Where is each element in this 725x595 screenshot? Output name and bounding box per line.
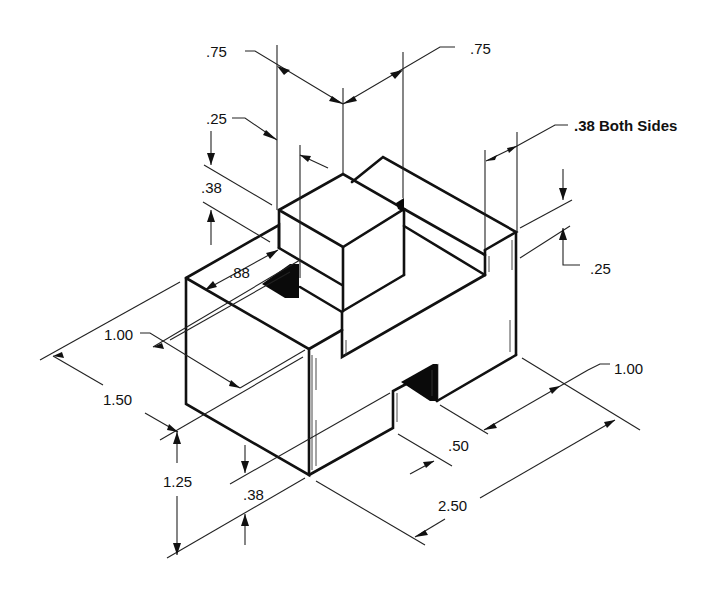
dim-overall-length: 2.50 bbox=[438, 497, 467, 514]
block-object bbox=[186, 157, 516, 475]
dim-cube-width-left: .75 bbox=[206, 43, 227, 60]
dim-step-height: .38 bbox=[201, 179, 222, 196]
dim-step-offset: .25 bbox=[206, 110, 227, 127]
dim-groove-depth: .25 bbox=[590, 260, 611, 277]
shaded-faces bbox=[262, 198, 437, 401]
dim-cube-width-right: .75 bbox=[470, 40, 491, 57]
dim-overall-height: 1.25 bbox=[163, 473, 192, 490]
dim-right-offset: 1.00 bbox=[614, 360, 643, 377]
dim-slot-height: .38 bbox=[243, 486, 264, 503]
dim-left-depth-inner: 1.00 bbox=[104, 326, 133, 343]
isometric-drawing: .75 .75 .25 .38 .38 Both Sides .25 .88 1… bbox=[0, 0, 725, 595]
dim-groove-length: .88 bbox=[229, 264, 250, 281]
dim-groove-width-note: .38 Both Sides bbox=[574, 117, 677, 134]
dim-overall-depth: 1.50 bbox=[103, 391, 132, 408]
dimension-lines bbox=[40, 45, 640, 558]
arrowheads bbox=[53, 66, 615, 555]
dim-slot-width: .50 bbox=[448, 437, 469, 454]
